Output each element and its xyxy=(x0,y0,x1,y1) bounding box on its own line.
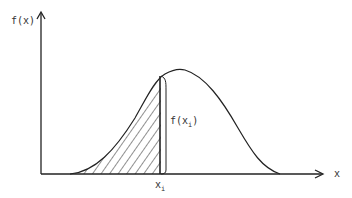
height-label: f(xi) xyxy=(170,115,198,129)
density-diagram: f(x) x xi f(xi) xyxy=(0,0,352,198)
shaded-area xyxy=(70,74,165,174)
y-axis-label: f(x) xyxy=(11,15,35,26)
height-bracket xyxy=(161,76,166,174)
xi-label: xi xyxy=(155,179,165,193)
x-axis-label: x xyxy=(334,168,340,179)
